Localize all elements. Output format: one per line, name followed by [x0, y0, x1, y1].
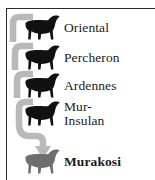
ancestry-row-ardennes: Ardennes: [22, 72, 117, 100]
breed-label: Mur- Insulan: [64, 100, 104, 128]
horse-silhouette-icon: [22, 149, 62, 175]
ancestry-row-murakosi: Murakosi: [22, 148, 121, 176]
frame-top-rule: [6, 8, 155, 9]
breed-label: Ardennes: [64, 79, 117, 93]
figure-canvas: Oriental Percheron Ardennes: [0, 0, 155, 180]
breed-label: Percheron: [64, 51, 120, 65]
horse-silhouette-icon: [22, 101, 62, 127]
horse-silhouette-icon: [22, 15, 62, 41]
horse-silhouette-icon: [22, 73, 62, 99]
ancestry-row-mur-insulan: Mur- Insulan: [22, 100, 104, 128]
horse-silhouette-icon: [22, 45, 62, 71]
breed-label: Murakosi: [64, 155, 121, 169]
frame-left-rule: [6, 8, 7, 180]
ancestry-row-percheron: Percheron: [22, 44, 120, 72]
breed-label: Oriental: [64, 21, 109, 35]
ancestry-row-oriental: Oriental: [22, 14, 109, 42]
breed-label-line-2: Insulan: [64, 114, 104, 128]
breed-label-line-1: Mur-: [64, 100, 104, 114]
